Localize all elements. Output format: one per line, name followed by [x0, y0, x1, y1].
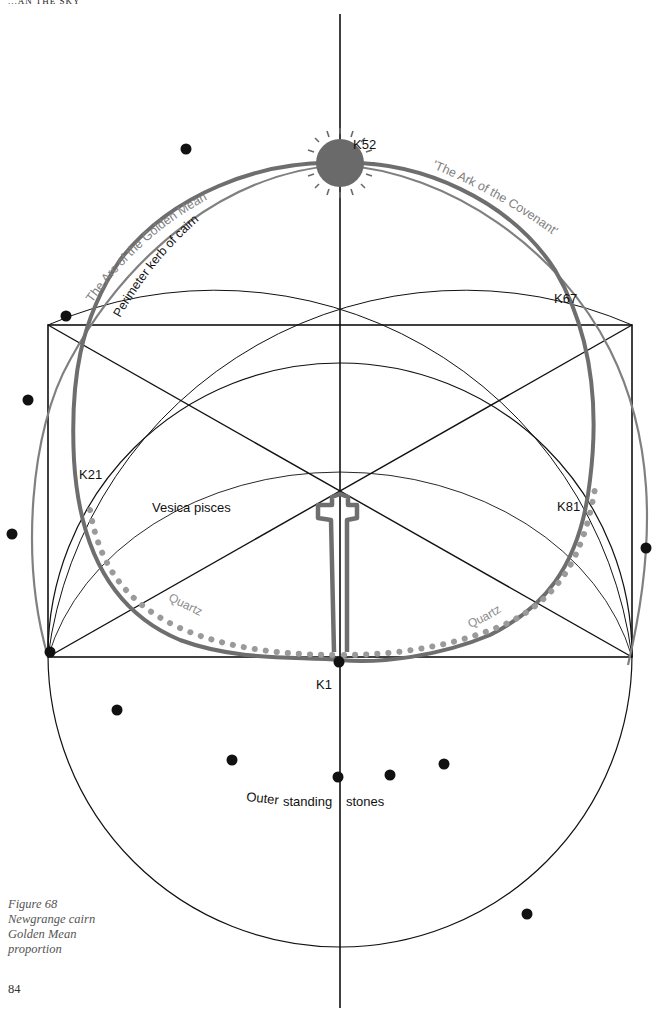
label-outer-standing-stones-2: standing	[283, 794, 332, 809]
label-outer-standing-stones-3: stones	[346, 794, 385, 809]
entrance-passage	[318, 494, 357, 652]
standing-stone	[641, 543, 652, 554]
standing-stone	[522, 909, 533, 920]
label-outer-standing-stones-1: Outer	[246, 789, 281, 807]
label-k67: K67	[554, 291, 577, 306]
standing-stone	[7, 529, 18, 540]
label-k21: K21	[79, 467, 102, 482]
standing-stone	[181, 144, 192, 155]
newgrange-golden-mean-diagram: K52 K67 K21 K81 K1 Vesica pisces The Arc…	[0, 0, 657, 1012]
figure-caption: Figure 68 Newgrange cairn Golden Mean pr…	[8, 897, 95, 957]
standing-stone	[227, 755, 238, 766]
caption-line: proportion	[8, 942, 95, 957]
label-vesica-pisces: Vesica pisces	[152, 500, 231, 515]
standing-stone	[385, 770, 396, 781]
caption-line: Figure 68	[8, 897, 95, 912]
caption-line: Golden Mean	[8, 927, 95, 942]
quartz-dots-left	[90, 510, 336, 655]
standing-stone	[61, 311, 72, 322]
standing-stone	[112, 705, 123, 716]
standing-stone	[333, 772, 344, 783]
k1-point	[334, 657, 345, 668]
label-k52: K52	[353, 137, 376, 152]
label-arc-golden-mean: The Arc of the Golden Mean	[83, 190, 209, 305]
label-quartz-left: Quartz	[166, 590, 204, 619]
label-k1: K1	[316, 677, 332, 692]
corner-point-left	[45, 647, 56, 658]
caption-line: Newgrange cairn	[8, 912, 95, 927]
label-k81: K81	[557, 499, 580, 514]
standing-stone	[23, 395, 34, 406]
standing-stone	[439, 759, 450, 770]
label-ark-covenant: 'The Ark of the Covenant'	[431, 158, 561, 238]
page-number: 84	[8, 982, 21, 997]
